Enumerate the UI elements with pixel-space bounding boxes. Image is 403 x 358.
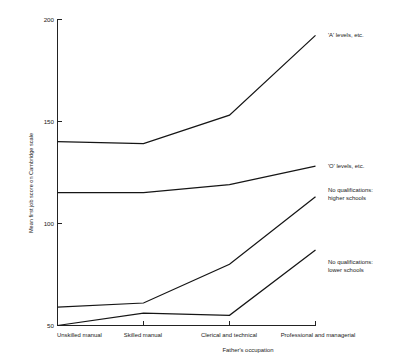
x-category-label-unskilled-manual: Unskilled manual <box>57 332 102 338</box>
series-label-no-qual-higher-schools-line1: No qualifications: <box>328 187 373 193</box>
series-line-a-levels <box>58 35 316 143</box>
series-label-no-qual-lower-schools-line1: No qualifications: <box>328 259 373 265</box>
y-axis-title: Mean first job score on Cambridge scale <box>28 133 34 233</box>
series-line-no-qual-higher-schools <box>58 197 316 307</box>
series-line-no-qual-lower-schools <box>58 250 316 326</box>
x-category-label-clerical-and-technical: Clerical and technical <box>201 332 257 338</box>
x-category-label-professional-and-managerial: Professional and managerial <box>281 332 356 338</box>
x-axis-title: Father's occupation <box>222 347 273 353</box>
y-tick-label-200: 200 <box>44 16 55 23</box>
y-tick-label-100: 100 <box>44 220 55 227</box>
series-label-no-qual-lower-schools-line2: lower schools <box>328 267 364 273</box>
line-chart: 200 150 100 50 Mean first job score on C… <box>0 0 403 358</box>
series-label-a-levels: 'A' levels, etc. <box>328 32 364 38</box>
chart-container: 200 150 100 50 Mean first job score on C… <box>0 0 403 358</box>
y-tick-label-50: 50 <box>47 322 54 329</box>
series-label-o-levels: 'O' levels, etc. <box>328 163 365 169</box>
series-line-o-levels <box>58 166 316 193</box>
series-label-no-qual-higher-schools-line2: higher schools <box>328 195 366 201</box>
x-category-label-skilled-manual: Skilled manual <box>124 332 162 338</box>
y-tick-label-150: 150 <box>44 118 55 125</box>
